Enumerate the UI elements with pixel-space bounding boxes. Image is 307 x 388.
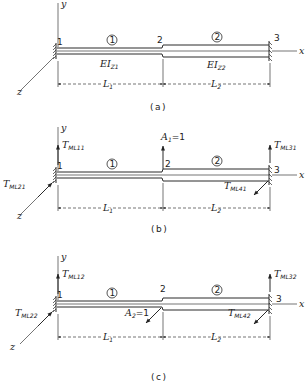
- caption-c: (c): [151, 372, 167, 382]
- element-2-label: 2: [215, 156, 221, 166]
- node-3-label: 3: [274, 165, 280, 175]
- node-1-label: 1: [57, 37, 63, 47]
- reaction-node3-y-label: TML31: [274, 139, 297, 151]
- node-2-label: 2: [160, 284, 166, 294]
- caption-b: (b): [151, 224, 168, 234]
- element-1-label: 1: [110, 35, 116, 45]
- reaction-arrow-node1-z: [38, 183, 52, 197]
- length-1-label: L1: [102, 331, 113, 343]
- x-axis-label: x: [299, 298, 305, 309]
- applied-load-label: A1=1: [160, 131, 185, 143]
- element-2-label: 2: [215, 32, 221, 42]
- length-1-label: L1: [102, 78, 113, 90]
- length-2-label: L2: [210, 331, 221, 343]
- element-2-label: 2: [215, 285, 221, 295]
- reaction-arrow-node3-z: [254, 181, 268, 195]
- reaction-node3-z-label: TML41: [224, 180, 247, 192]
- panel-b: y x z 1 2 3 1 2 TML11 TML21 TML31 TML41 …: [3, 122, 305, 234]
- node-2-label: 2: [165, 159, 171, 169]
- reaction-node3-y-label: TML32: [274, 268, 297, 280]
- element-1-label: 1: [110, 159, 116, 169]
- length-2-label: L2: [210, 202, 221, 214]
- panel-a: y x z 1 2 3 1 2 EIZ1 EIZ2 L1 L2 (a): [16, 0, 305, 112]
- length-2-label: L2: [210, 78, 221, 90]
- y-axis-label: y: [60, 122, 67, 133]
- x-axis-label: x: [299, 45, 305, 56]
- reaction-node1-z-label: TML21: [3, 178, 26, 190]
- stiffness-2-label: EIZ2: [206, 59, 226, 71]
- node-3-label: 3: [276, 294, 282, 304]
- z-axis-label: z: [9, 341, 16, 352]
- panel-c: y x z 1 2 3 1 2 TML12 TML22 TML32 TML42 …: [9, 251, 305, 382]
- node-2-label: 2: [157, 35, 163, 45]
- x-axis-label: x: [299, 169, 305, 180]
- reaction-node3-z-label: TML42: [228, 307, 251, 319]
- reaction-arrow-node3-z: [254, 310, 268, 324]
- stiffness-1-label: EIZ1: [99, 58, 119, 70]
- z-axis-label: z: [16, 86, 23, 97]
- applied-load-label: A2=1: [124, 307, 149, 319]
- length-1-label: L1: [102, 202, 113, 214]
- beam-diagram: y x z 1 2 3 1 2 EIZ1 EIZ2 L1 L2 (a) y x …: [0, 0, 307, 388]
- z-axis-label: z: [16, 210, 23, 221]
- node-3-label: 3: [274, 33, 280, 43]
- reaction-node1-y-label: TML12: [62, 268, 85, 280]
- y-axis-label: y: [60, 0, 67, 9]
- caption-a: (a): [150, 102, 167, 112]
- element-1-label: 1: [110, 288, 116, 298]
- reaction-node1-y-label: TML11: [62, 139, 85, 151]
- y-axis-label: y: [60, 251, 67, 262]
- reaction-arrow-node1-z: [38, 312, 52, 326]
- reaction-node1-z-label: TML22: [15, 307, 38, 319]
